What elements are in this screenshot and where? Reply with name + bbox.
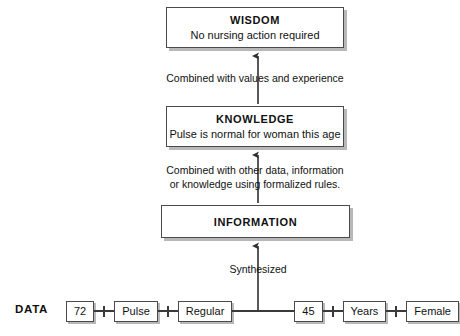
connector-segment xyxy=(169,310,178,312)
connector-segment xyxy=(334,310,343,312)
knowledge-title: KNOWLEDGE xyxy=(216,112,294,126)
data-element-box: Female xyxy=(406,301,459,322)
data-connector xyxy=(232,301,294,322)
data-connector xyxy=(158,301,178,322)
data-element-box: 45 xyxy=(294,301,322,322)
connector-segment xyxy=(397,310,406,312)
data-element-box: 72 xyxy=(66,301,94,322)
connector-segment xyxy=(158,310,167,312)
connector-segment xyxy=(323,310,332,312)
wisdom-subtitle: No nursing action required xyxy=(190,28,319,43)
information-title: INFORMATION xyxy=(214,215,297,229)
connector-segment xyxy=(105,310,114,312)
data-element-box: Regular xyxy=(178,301,233,322)
data-element-row: 72PulseRegular45YearsFemale xyxy=(66,299,459,323)
wisdom-title: WISDOM xyxy=(230,13,280,27)
data-connector xyxy=(386,301,406,322)
dikw-diagram: WISDOM No nursing action required Combin… xyxy=(0,0,460,336)
connector-segment xyxy=(386,310,395,312)
knowledge-subtitle: Pulse is normal for woman this age xyxy=(169,127,340,142)
data-connector xyxy=(323,301,343,322)
connector-segment xyxy=(232,310,263,312)
data-element-box: Years xyxy=(343,301,387,322)
edge-label-knowledge-to-wisdom: Combined with values and experience xyxy=(130,71,380,85)
connector-segment xyxy=(263,310,294,312)
data-connector xyxy=(94,301,114,322)
data-row-label: DATA xyxy=(15,303,48,315)
edge-label-information-to-knowledge: Combined with other data, information or… xyxy=(125,163,385,191)
edge-label-data-to-information: Synthesized xyxy=(180,262,336,276)
data-element-box: Pulse xyxy=(114,301,158,322)
wisdom-node: WISDOM No nursing action required xyxy=(166,7,344,48)
connector-segment xyxy=(94,310,103,312)
knowledge-node: KNOWLEDGE Pulse is normal for woman this… xyxy=(166,106,344,147)
information-node: INFORMATION xyxy=(161,205,350,238)
